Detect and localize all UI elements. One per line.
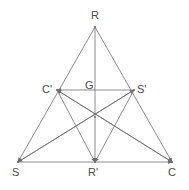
geometry-canvas xyxy=(0,0,189,190)
cevian-Cp-C xyxy=(57,90,172,162)
side-R-C xyxy=(95,27,172,162)
vertex-point-Sprime xyxy=(133,89,135,91)
vertex-label-G: G xyxy=(85,80,94,91)
vertex-point-Cprime xyxy=(56,89,58,91)
vertex-point-S xyxy=(17,161,19,163)
vertex-label-Sprime: S' xyxy=(137,84,146,95)
geometry-diagram: RSCC'S'R'G xyxy=(0,0,189,190)
vertex-point-R xyxy=(94,26,96,28)
vertex-label-R: R xyxy=(91,10,99,21)
vertex-label-S: S xyxy=(12,167,19,178)
vertex-point-Rprime xyxy=(94,161,96,163)
vertex-point-C xyxy=(171,161,173,163)
vertex-label-Cprime: C' xyxy=(42,84,52,95)
cevian-Sp-S xyxy=(18,90,134,162)
vertex-point-G xyxy=(94,116,96,118)
vertex-label-Rprime: R' xyxy=(88,167,98,178)
vertex-label-C: C xyxy=(168,167,176,178)
side-R-S xyxy=(18,27,95,162)
